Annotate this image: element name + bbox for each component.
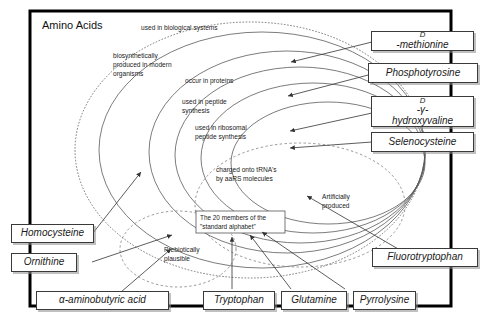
label-phosphotyrosine-text: Phosphotyrosine	[386, 68, 461, 79]
label-selenocysteine-text: Selenocysteine	[389, 137, 457, 148]
page-title: Amino Acids	[42, 19, 103, 31]
label-fluorotryptophan-text: Fluorotryptophan	[387, 252, 463, 263]
caption-artificially-produced-l2: produced	[322, 202, 350, 210]
caption-used-in-peptide-synthesis-l2: synthesis	[182, 107, 210, 115]
caption-used-in-biological-systems: used in biological systems	[141, 24, 218, 32]
leader-phosphotyrosine	[288, 74, 372, 96]
caption-artificially-produced-l1: Artificially	[322, 193, 351, 201]
core-label-l2: "standard alphabet"	[200, 223, 256, 231]
caption-used-in-ribosomal-l1: used in ribosomal	[195, 124, 247, 131]
leader-homocysteine	[93, 172, 141, 233]
label-ornithine[interactable]: Ornithine	[11, 253, 77, 272]
caption-used-in-ribosomal-l2: peptide synthesis	[195, 133, 247, 141]
caption-charged-onto-trna-l1: charged onto tRNA's	[216, 166, 277, 174]
label-d-gamma-hydroxyvaline[interactable]: D-γ- hydroxyvaline	[371, 96, 474, 127]
leader-glutamine	[250, 235, 291, 289]
core-label-l1: The 20 members of the	[200, 214, 267, 221]
label-tryptophan-text: Tryptophan	[214, 295, 264, 306]
caption-occur-in-proteins: occur in proteins	[185, 77, 234, 85]
leader-d-gamma-hydroxyvaline	[290, 113, 372, 131]
caption-charged-onto-trna-l2: by aaRS molecules	[216, 175, 274, 183]
label-hydroxyvaline-line2: hydroxyvaline	[392, 116, 453, 127]
leader-alpha-aminobutyric-acid	[121, 249, 171, 292]
caption-used-in-peptide-synthesis-l1: used in peptide	[182, 98, 227, 106]
label-d-methionine-prefix: D	[396, 31, 448, 39]
label-pyrrolysine-text: Pyrrolysine	[360, 295, 409, 306]
core-standard-alphabet: The 20 members of the "standard alphabet…	[196, 211, 285, 233]
label-d-methionine-rest: -methionine	[396, 40, 448, 51]
label-homocysteine-text: Homocysteine	[21, 228, 84, 239]
caption-biosynthetically-produced-l3: organisms	[113, 70, 144, 78]
label-alpha-aminobutyric-acid-text: α-aminobutyric acid	[59, 295, 146, 306]
label-ornithine-text: Ornithine	[24, 257, 65, 268]
label-glutamine[interactable]: Glutamine	[281, 291, 347, 310]
label-d-methionine[interactable]: D-methionine	[371, 31, 474, 51]
label-tryptophan[interactable]: Tryptophan	[203, 291, 275, 310]
amino-acids-venn-diagram: used in biological systems biosynthetica…	[0, 0, 482, 318]
label-glutamine-text: Glutamine	[291, 295, 337, 306]
label-fluorotryptophan[interactable]: Fluorotryptophan	[372, 248, 478, 267]
caption-prebiotically-plausible-l2: plausible	[164, 255, 190, 263]
label-alpha-aminobutyric-acid[interactable]: α-aminobutyric acid	[36, 291, 169, 310]
label-homocysteine[interactable]: Homocysteine	[11, 224, 94, 243]
caption-biosynthetically-produced-l2: produced in modern	[113, 61, 172, 69]
leader-pyrrolysine	[262, 232, 345, 289]
label-phosphotyrosine[interactable]: Phosphotyrosine	[368, 63, 478, 83]
caption-biosynthetically-produced-l1: biosynthetically	[113, 52, 158, 60]
label-selenocysteine[interactable]: Selenocysteine	[371, 132, 474, 152]
label-d-gamma-prefix: D	[417, 97, 429, 105]
leader-selenocysteine	[290, 142, 372, 148]
label-pyrrolysine[interactable]: Pyrrolysine	[353, 291, 416, 310]
